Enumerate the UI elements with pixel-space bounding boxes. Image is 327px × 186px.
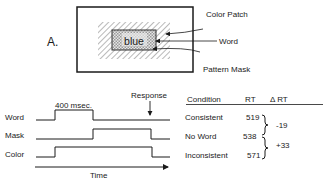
stimulus-word: blue bbox=[124, 35, 144, 47]
mask-trace bbox=[36, 129, 170, 139]
color-trace bbox=[36, 147, 170, 157]
response-label: Response bbox=[131, 91, 168, 100]
results-table: Condition RT Δ RT Consistent 519 No Word… bbox=[185, 95, 323, 160]
row-label-color: Color bbox=[5, 150, 24, 159]
row-label-mask: Mask bbox=[5, 131, 25, 140]
row-label-word: Word bbox=[5, 113, 24, 122]
callout-pattern-mask: Pattern Mask bbox=[203, 65, 251, 74]
panel-label: A. bbox=[47, 35, 58, 49]
callout-color-patch: Color Patch bbox=[206, 10, 248, 19]
row-rt: 571 bbox=[247, 151, 261, 160]
row-rt: 519 bbox=[246, 113, 260, 122]
stimulus-display: blue bbox=[77, 7, 193, 72]
delta-consistent: -19 bbox=[276, 121, 288, 130]
timing-diagram: 400 msec. Response Word Mask Color Time bbox=[5, 91, 170, 180]
row-condition: Consistent bbox=[185, 113, 224, 122]
callout-word: Word bbox=[219, 37, 238, 46]
header-delta-rt: Δ RT bbox=[270, 95, 288, 104]
header-condition: Condition bbox=[187, 95, 221, 104]
stroop-figure: A. blue Color Patch Word Pattern Mask 40… bbox=[0, 0, 327, 186]
row-rt: 538 bbox=[243, 132, 257, 141]
row-condition: No Word bbox=[185, 132, 216, 141]
brace-icon bbox=[262, 115, 268, 135]
brace-icon bbox=[262, 137, 268, 159]
duration-label: 400 msec. bbox=[55, 101, 92, 110]
delta-inconsistent: +33 bbox=[276, 141, 290, 150]
time-axis-label: Time bbox=[90, 171, 108, 180]
header-rt: RT bbox=[245, 95, 256, 104]
row-condition: Inconsistent bbox=[185, 151, 228, 160]
